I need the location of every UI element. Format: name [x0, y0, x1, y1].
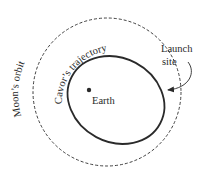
launch-site-label-line1: Launch	[161, 43, 193, 54]
earth-dot-icon	[87, 88, 91, 92]
orbit-diagram: Earth Moon’s orbit Cavor’s trajectory La…	[0, 0, 203, 171]
launch-site-label-line2: site	[162, 56, 177, 67]
moon-orbit-label: Moon’s orbit	[9, 59, 26, 118]
moon-orbit-label-path: Moon’s orbit	[9, 59, 26, 118]
earth-label: Earth	[92, 95, 115, 106]
